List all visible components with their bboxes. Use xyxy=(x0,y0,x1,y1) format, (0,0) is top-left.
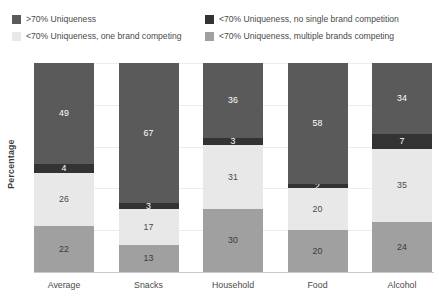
bar-column-food[interactable]: 5822020 xyxy=(288,63,348,272)
bar-segment[interactable]: 13 xyxy=(119,245,179,272)
bar-segment-value: 7 xyxy=(400,137,405,146)
x-tick-label-household: Household xyxy=(203,275,263,295)
bar-segment-value: 36 xyxy=(228,96,238,105)
bar-segment[interactable]: 26 xyxy=(34,173,94,227)
bar-segment[interactable]: 22 xyxy=(34,226,94,272)
bar-segment-value: 31 xyxy=(228,173,238,182)
bar-segment[interactable]: 67 xyxy=(119,63,179,203)
legend-swatch-one-brand-icon xyxy=(12,32,21,41)
legend-swatch-no-single-brand-icon xyxy=(205,15,214,24)
bar-segment-value: 26 xyxy=(59,195,69,204)
x-axis-line xyxy=(34,272,434,273)
x-tick-label-alcohol: Alcohol xyxy=(372,275,432,295)
chart-legend: >70% Uniqueness <70% Uniqueness, no sing… xyxy=(0,0,439,56)
bar-segment[interactable]: 58 xyxy=(288,63,348,184)
legend-row-1: >70% Uniqueness <70% Uniqueness, no sing… xyxy=(12,13,431,30)
bar-segment[interactable]: 31 xyxy=(203,145,263,210)
bar-segment-value: 49 xyxy=(59,109,69,118)
bar-segment-value: 30 xyxy=(228,236,238,245)
legend-item-high-uniqueness[interactable]: >70% Uniqueness xyxy=(12,13,205,25)
bar-segment-value: 20 xyxy=(313,247,323,256)
bar-segment[interactable]: 36 xyxy=(203,63,263,138)
stacked-bars: 49426226731713363313058220203473524 xyxy=(34,63,432,272)
bar-segment[interactable]: 35 xyxy=(372,149,432,222)
legend-item-no-single-brand[interactable]: <70% Uniqueness, no single brand competi… xyxy=(205,13,431,25)
chart-area: Percentage 49426226731713363313058220203… xyxy=(0,56,439,300)
bar-segment[interactable]: 20 xyxy=(288,230,348,272)
bar-column-alcohol[interactable]: 3473524 xyxy=(372,63,432,272)
bar-segment[interactable]: 20 xyxy=(288,188,348,230)
bar-segment[interactable]: 30 xyxy=(203,209,263,272)
x-tick-label-average: Average xyxy=(34,275,94,295)
legend-item-one-brand[interactable]: <70% Uniqueness, one brand competing xyxy=(12,30,205,42)
bar-column-household[interactable]: 3633130 xyxy=(203,63,263,272)
bar-segment[interactable]: 4 xyxy=(34,164,94,172)
bar-segment-value: 17 xyxy=(144,223,154,232)
bar-segment-value: 22 xyxy=(59,245,69,254)
legend-label-no-single-brand: <70% Uniqueness, no single brand competi… xyxy=(219,13,399,25)
bar-segment-value: 20 xyxy=(313,205,323,214)
bar-segment-value: 58 xyxy=(313,119,323,128)
legend-swatch-multiple-brands-icon xyxy=(205,32,214,41)
bar-segment[interactable]: 7 xyxy=(372,134,432,149)
legend-swatch-high-uniqueness-icon xyxy=(12,15,21,24)
bar-segment[interactable]: 24 xyxy=(372,222,432,272)
bar-segment-value: 34 xyxy=(397,94,407,103)
y-axis-label-text: Percentage xyxy=(6,139,16,188)
bar-segment[interactable]: 17 xyxy=(119,209,179,245)
bar-segment-value: 13 xyxy=(144,254,154,263)
x-tick-label-snacks: Snacks xyxy=(119,275,179,295)
bar-segment-value: 35 xyxy=(397,181,407,190)
legend-item-multiple-brands[interactable]: <70% Uniqueness, multiple brands competi… xyxy=(205,30,431,42)
bar-segment-value: 4 xyxy=(62,164,67,172)
bar-column-snacks[interactable]: 6731713 xyxy=(119,63,179,272)
bar-segment[interactable]: 34 xyxy=(372,63,432,134)
y-axis-label: Percentage xyxy=(0,56,22,272)
bar-segment[interactable]: 49 xyxy=(34,63,94,164)
legend-label-one-brand: <70% Uniqueness, one brand competing xyxy=(26,30,182,42)
bar-segment-value: 24 xyxy=(397,243,407,252)
x-axis-tick-labels: AverageSnacksHouseholdFoodAlcohol xyxy=(34,275,432,295)
bar-column-average[interactable]: 4942622 xyxy=(34,63,94,272)
bar-segment-value: 67 xyxy=(144,129,154,138)
legend-label-multiple-brands: <70% Uniqueness, multiple brands competi… xyxy=(219,30,394,42)
legend-row-2: <70% Uniqueness, one brand competing <70… xyxy=(12,30,431,47)
legend-label-high-uniqueness: >70% Uniqueness xyxy=(26,13,96,25)
x-tick-label-food: Food xyxy=(288,275,348,295)
